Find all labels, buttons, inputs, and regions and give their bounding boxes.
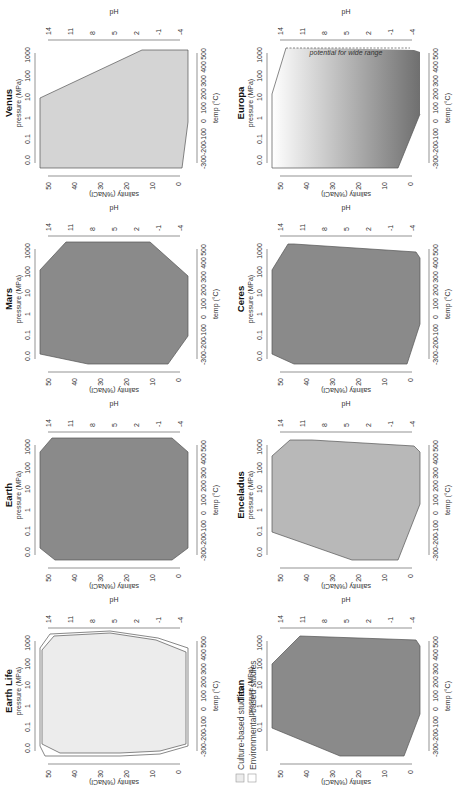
svg-text:0: 0 [200, 119, 207, 123]
svg-text:temp (°C): temp (°C) [444, 681, 452, 711]
svg-text:30: 30 [329, 770, 336, 778]
svg-text:50: 50 [277, 182, 284, 190]
svg-text:100: 100 [432, 298, 439, 310]
svg-text:1000: 1000 [24, 243, 31, 259]
svg-text:200: 200 [200, 284, 207, 296]
svg-text:-200: -200 [200, 141, 207, 155]
panel-title: Enceladus [235, 471, 246, 519]
svg-text:500: 500 [432, 48, 439, 60]
svg-text:salinity (%NaCl): salinity (%NaCl) [89, 582, 139, 590]
svg-text:-100: -100 [200, 716, 207, 730]
svg-text:200: 200 [432, 284, 439, 296]
svg-text:pH: pH [342, 204, 351, 212]
svg-text:-200: -200 [432, 337, 439, 351]
svg-text:-1: -1 [155, 29, 162, 35]
svg-text:salinity (%NaCl): salinity (%NaCl) [321, 386, 371, 394]
svg-text:0.0: 0.0 [256, 155, 263, 165]
svg-text:pH: pH [110, 400, 119, 408]
svg-text:salinity (%NaCl): salinity (%NaCl) [89, 386, 139, 394]
svg-text:30: 30 [97, 182, 104, 190]
habitability-envelope [40, 50, 188, 168]
svg-text:10: 10 [381, 378, 388, 386]
svg-text:8: 8 [89, 619, 96, 623]
svg-text:300: 300 [432, 271, 439, 283]
svg-text:0: 0 [175, 770, 182, 774]
svg-text:10: 10 [24, 93, 31, 101]
svg-text:salinity (%NaCl): salinity (%NaCl) [89, 190, 139, 198]
habitability-envelope [272, 440, 420, 560]
svg-text:0: 0 [200, 511, 207, 515]
svg-text:-4: -4 [409, 421, 416, 427]
svg-text:-200: -200 [432, 533, 439, 547]
svg-text:1: 1 [256, 508, 263, 512]
svg-text:0: 0 [432, 707, 439, 711]
svg-text:10: 10 [256, 93, 263, 101]
svg-text:500: 500 [200, 636, 207, 648]
svg-text:-200: -200 [200, 337, 207, 351]
svg-text:5: 5 [111, 619, 118, 623]
svg-text:20: 20 [355, 770, 362, 778]
svg-text:5: 5 [111, 227, 118, 231]
svg-text:-100: -100 [432, 716, 439, 730]
svg-text:14: 14 [45, 419, 52, 427]
svg-text:-300: -300 [432, 155, 439, 169]
legend-swatch-culture [236, 774, 244, 782]
svg-text:10: 10 [256, 681, 263, 689]
svg-text:-4: -4 [409, 617, 416, 623]
svg-text:11: 11 [67, 224, 74, 231]
svg-text:30: 30 [329, 378, 336, 386]
svg-text:1000: 1000 [256, 243, 263, 259]
panel-title: Titan [235, 680, 246, 703]
svg-text:2: 2 [133, 423, 140, 427]
habitability-envelope [272, 244, 420, 364]
svg-text:300: 300 [432, 663, 439, 675]
svg-text:5: 5 [343, 423, 350, 427]
svg-text:-200: -200 [432, 729, 439, 743]
svg-text:8: 8 [321, 423, 328, 427]
svg-text:10: 10 [149, 574, 156, 582]
svg-text:2: 2 [365, 423, 372, 427]
svg-text:50: 50 [277, 574, 284, 582]
panel-title: Earth Life [3, 669, 14, 713]
svg-text:20: 20 [123, 574, 130, 582]
svg-text:8: 8 [321, 227, 328, 231]
svg-text:pressure (MPa): pressure (MPa) [247, 667, 255, 715]
svg-text:5: 5 [111, 423, 118, 427]
svg-text:400: 400 [200, 257, 207, 269]
svg-text:-4: -4 [177, 29, 184, 35]
svg-text:200: 200 [432, 480, 439, 492]
svg-text:0: 0 [175, 182, 182, 186]
svg-text:-300: -300 [432, 547, 439, 561]
svg-text:30: 30 [97, 378, 104, 386]
svg-text:-300: -300 [432, 351, 439, 365]
panel-title: Mars [3, 288, 14, 310]
svg-text:20: 20 [123, 770, 130, 778]
panel-europa: Europa pressure (MPa) 0.0 0.1 1 10 100 1… [235, 8, 452, 198]
panel-venus: Venus pressure (MPa) 0.0 0.1 1 10 100 10… [3, 8, 220, 198]
svg-text:40: 40 [303, 574, 310, 582]
svg-text:pressure (MPa): pressure (MPa) [15, 471, 23, 519]
svg-text:500: 500 [432, 440, 439, 452]
svg-text:5: 5 [111, 31, 118, 35]
svg-text:40: 40 [71, 770, 78, 778]
svg-text:0.1: 0.1 [24, 526, 31, 536]
svg-text:10: 10 [256, 485, 263, 493]
svg-text:200: 200 [432, 88, 439, 100]
svg-text:-4: -4 [409, 225, 416, 231]
svg-text:500: 500 [200, 244, 207, 256]
svg-text:1: 1 [24, 312, 31, 316]
svg-text:-200: -200 [200, 729, 207, 743]
svg-text:0.1: 0.1 [256, 526, 263, 536]
svg-text:100: 100 [24, 70, 31, 82]
svg-text:-100: -100 [432, 324, 439, 338]
svg-text:500: 500 [432, 244, 439, 256]
svg-text:40: 40 [71, 378, 78, 386]
svg-text:-300: -300 [432, 743, 439, 757]
svg-text:-300: -300 [200, 351, 207, 365]
svg-text:-300: -300 [200, 155, 207, 169]
panel-titan: Titan pressure (MPa) 0.1 1 10 100 1000 5… [235, 596, 452, 786]
svg-text:-1: -1 [155, 225, 162, 231]
svg-text:40: 40 [303, 182, 310, 190]
svg-text:-300: -300 [200, 547, 207, 561]
svg-text:-200: -200 [200, 533, 207, 547]
